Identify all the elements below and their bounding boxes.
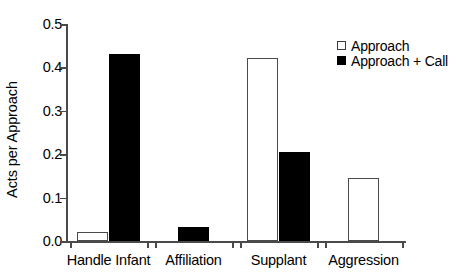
x-tick-mark <box>232 241 234 248</box>
x-tick-mark <box>155 241 157 248</box>
bar <box>77 232 108 241</box>
legend-label: Approach <box>351 38 409 54</box>
x-tick-mark <box>240 241 242 248</box>
category-label: Aggression <box>328 252 399 268</box>
y-tick-label: 0.2 <box>22 147 62 162</box>
x-tick-mark <box>317 241 319 248</box>
y-tick-mark <box>60 111 67 113</box>
y-tick-label: 0.1 <box>22 190 62 205</box>
x-tick-mark <box>147 241 149 248</box>
x-tick-mark <box>325 241 327 248</box>
y-tick-mark <box>60 154 67 156</box>
legend-item: Approach + Call <box>337 53 448 68</box>
category-label: Handle Infant <box>67 252 151 268</box>
category-label: Affiliation <box>165 252 221 268</box>
y-axis-tick-labels: 0.00.10.20.30.40.5 <box>20 0 62 279</box>
x-tick-mark <box>70 241 72 248</box>
y-tick-mark <box>60 198 67 200</box>
y-axis-spine <box>66 24 68 241</box>
x-axis-spine <box>66 241 406 243</box>
y-axis-title-text: Acts per Approach <box>4 81 20 198</box>
legend-item: Approach <box>337 38 448 53</box>
legend-swatch-icon <box>337 56 346 65</box>
bar <box>109 54 140 241</box>
y-tick-mark <box>60 241 67 243</box>
bar <box>178 227 209 241</box>
y-tick-mark <box>60 24 67 26</box>
y-tick-label: 0.4 <box>22 60 62 75</box>
category-label: Supplant <box>251 252 307 268</box>
bar <box>247 58 278 241</box>
bar-chart: Acts per Approach 0.00.10.20.30.40.5 Han… <box>0 0 464 279</box>
bar <box>279 152 310 241</box>
bar <box>348 178 379 241</box>
legend-label: Approach + Call <box>351 53 448 69</box>
y-tick-label: 0.3 <box>22 104 62 119</box>
legend: ApproachApproach + Call <box>337 38 448 68</box>
legend-swatch-icon <box>337 41 346 50</box>
y-tick-label: 0.5 <box>22 17 62 32</box>
y-tick-label: 0.0 <box>22 234 62 249</box>
x-tick-mark <box>402 241 404 248</box>
y-tick-mark <box>60 67 67 69</box>
